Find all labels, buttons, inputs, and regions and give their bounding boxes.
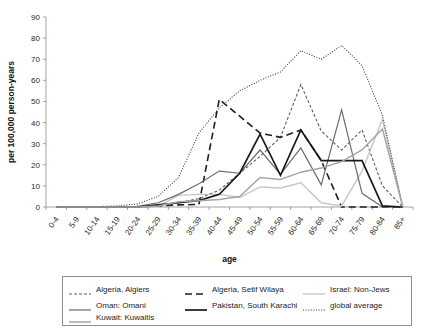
x-tick-label: 35-39 (184, 215, 203, 237)
legend-label: Kuwait: Kuwaitis (96, 313, 154, 323)
legend-line-swatch (185, 301, 207, 311)
x-axis-category-labels: 0-45-910-1415-1920-2425-2930-3435-3940-4… (47, 215, 408, 237)
legend-label: Oman: Omani (96, 301, 146, 311)
legend-line-swatch (69, 301, 91, 311)
x-tick-label: 45-49 (225, 215, 244, 237)
x-tick-label: 80-84 (368, 215, 387, 237)
legend-line-swatch (185, 285, 207, 295)
legend-item: global average (303, 299, 382, 312)
series-lines (56, 46, 403, 208)
series-line-2 (56, 119, 403, 207)
legend-item: Algeria, Setif Wilaya (185, 283, 284, 296)
x-tick-label: 0-4 (47, 215, 61, 230)
legend-line-swatch (303, 285, 325, 295)
x-tick-label: 15-19 (103, 215, 122, 237)
x-tick-label: 55-59 (266, 215, 285, 237)
y-tick-label: 80 (31, 34, 40, 43)
x-tick-label: 75-79 (348, 215, 367, 237)
y-tick-label: 40 (31, 119, 40, 128)
x-tick-label: 40-44 (205, 215, 224, 237)
y-tick-label: 70 (31, 55, 40, 64)
legend-label: Algeria, Setif Wilaya (212, 285, 284, 295)
chart-figure: 0102030405060708090 0-45-910-1415-1920-2… (0, 0, 424, 332)
x-tick-label: 10-14 (82, 215, 101, 237)
y-tick-label: 50 (31, 97, 40, 106)
x-tick-label: 30-34 (164, 215, 183, 237)
legend-item: Israel: Non-Jews (303, 283, 390, 296)
y-tick-label: 20 (31, 161, 40, 170)
y-axis-title: per 100,000 person-years (6, 61, 16, 163)
legend-item: Kuwait: Kuwaitis (69, 311, 154, 324)
y-tick-label: 10 (31, 182, 40, 191)
x-tick-label: 20-24 (123, 215, 142, 237)
legend-line-swatch (69, 313, 91, 323)
x-tick-label: 60-64 (286, 215, 305, 237)
x-tick-label: 70-74 (327, 215, 346, 237)
y-axis-ticks: 0102030405060708090 (31, 13, 46, 212)
x-tick-label: 50-54 (246, 215, 265, 237)
y-tick-label: 60 (31, 76, 40, 85)
legend-label: global average (330, 301, 382, 311)
legend-item: Pakistan, South Karachi (185, 299, 297, 312)
x-tick-label: 5-9 (67, 215, 81, 230)
legend-line-swatch (303, 301, 325, 311)
y-tick-label: 0 (36, 203, 41, 212)
y-tick-label: 30 (31, 140, 40, 149)
x-tick-label: 25-29 (144, 215, 163, 237)
legend-entries: Algeria, AlgiersAlgeria, Setif WilayaIsr… (63, 277, 411, 325)
series-line-3 (56, 110, 403, 207)
chart-legend: Algeria, AlgiersAlgeria, Setif WilayaIsr… (62, 276, 412, 326)
legend-line-swatch (69, 285, 91, 295)
legend-label: Pakistan, South Karachi (212, 301, 297, 311)
legend-label: Israel: Non-Jews (330, 285, 390, 295)
x-axis-title: age (222, 254, 237, 264)
x-tick-label: 65-69 (307, 215, 326, 237)
legend-label: Algeria, Algiers (96, 285, 149, 295)
x-tick-label: 85+ (392, 215, 407, 232)
legend-item: Algeria, Algiers (69, 283, 149, 296)
y-tick-label: 90 (31, 13, 40, 22)
